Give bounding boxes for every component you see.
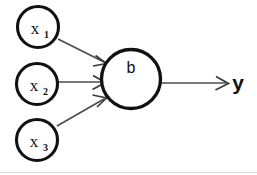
neuron-node-b-label: b	[127, 59, 136, 76]
edge-x3-to-b	[57, 95, 107, 126]
input-node-x3-label: x	[30, 132, 39, 151]
input-node-x2-label: x	[30, 76, 39, 95]
edge-x1-line	[58, 39, 104, 62]
edge-x3-line	[57, 99, 104, 126]
diagram-canvas: x 1 x 2 x 3 b y	[0, 0, 257, 175]
output-label-y: y	[232, 71, 244, 94]
edge-x2-to-b	[58, 76, 106, 90]
input-node-x1-label: x	[31, 19, 40, 38]
input-node-x3[interactable]: x 3	[17, 120, 58, 161]
input-node-x2[interactable]: x 2	[17, 64, 58, 105]
neuron-diagram: x 1 x 2 x 3 b y	[0, 0, 257, 175]
edge-x1-to-b	[58, 39, 107, 66]
input-node-x1[interactable]: x 1	[18, 7, 59, 48]
edge-b-to-output	[161, 77, 229, 91]
input-node-x2-subscript: 2	[43, 86, 48, 97]
input-node-x3-subscript: 3	[43, 142, 48, 153]
input-node-x1-subscript: 1	[44, 29, 49, 40]
neuron-node-b[interactable]: b	[102, 50, 161, 109]
